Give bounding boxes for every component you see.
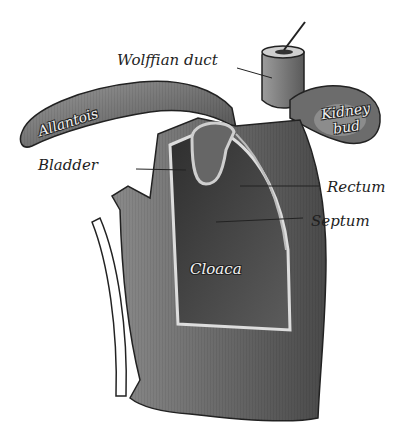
label-cloaca: Cloaca	[190, 262, 242, 277]
label-rectum: Rectum	[327, 180, 385, 195]
label-septum: Septum	[311, 214, 370, 229]
label-wolffian-duct: Wolffian duct	[117, 53, 218, 68]
label-kidney-bud-line2: bud	[332, 118, 361, 136]
label-bladder: Bladder	[38, 158, 98, 173]
